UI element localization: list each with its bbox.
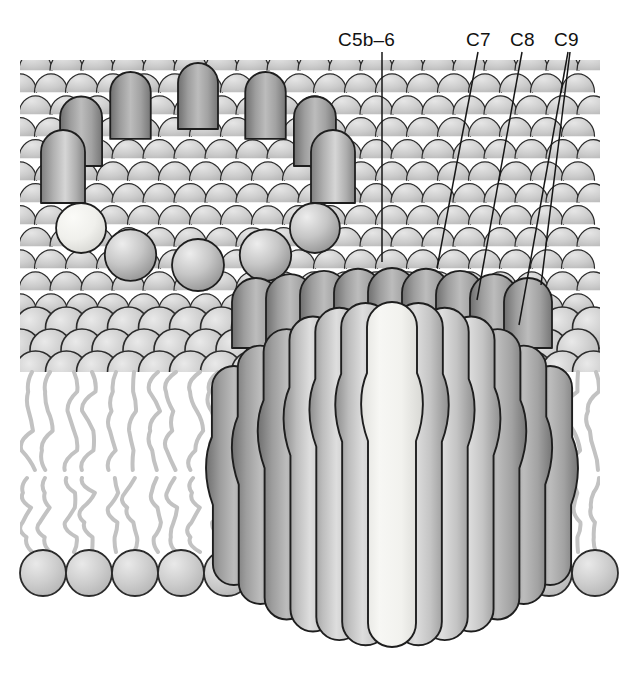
label-c9: C9 [554, 30, 579, 49]
label-c5b6: C5b–6 [338, 30, 395, 49]
label-c8: C8 [510, 30, 535, 49]
mac-pore-transmembrane [206, 268, 578, 647]
mac-pore-illustration [0, 0, 627, 683]
label-c7: C7 [466, 30, 491, 49]
figure-canvas: C5b–6 C7 C8 C9 [0, 0, 627, 683]
